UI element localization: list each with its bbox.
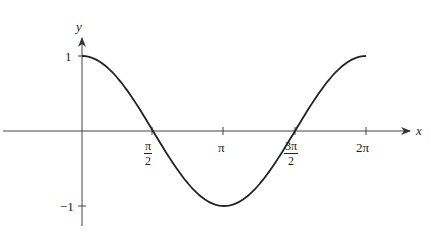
fraction-numerator: 3π (284, 140, 298, 154)
y-tick-label-1: 1 (65, 50, 72, 63)
x-tick-label-two-pi: 2π (356, 141, 369, 154)
x-axis-label: x (416, 124, 422, 137)
x-tick-label-pi: π (218, 141, 225, 154)
x-tick-label-pi-half: π 2 (144, 140, 152, 167)
x-tick-label-three-pi-half: 3π 2 (284, 140, 298, 167)
fraction-numerator: π (144, 140, 152, 154)
y-axis-label: y (76, 20, 82, 33)
cosine-chart (0, 0, 440, 232)
fraction-denominator: 2 (145, 154, 151, 167)
fraction-denominator: 2 (288, 154, 294, 167)
y-tick-label-neg1: −1 (60, 200, 74, 213)
